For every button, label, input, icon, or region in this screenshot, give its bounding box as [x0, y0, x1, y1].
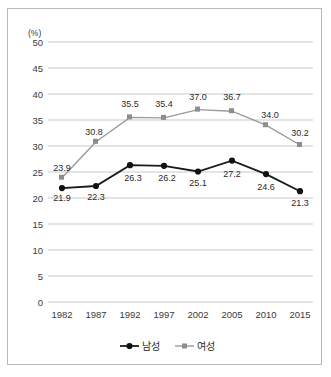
legend: 남성 여성	[120, 341, 215, 352]
y-tick-15: 15	[32, 219, 43, 230]
x-tick-2010: 2010	[255, 309, 276, 320]
data-label-male-1982: 21.9	[53, 193, 71, 203]
data-label-female-2010: 34.0	[261, 110, 279, 120]
x-tick-2015: 2015	[289, 309, 310, 320]
data-point-female-1997	[161, 115, 166, 120]
data-label-female-2015: 30.2	[291, 128, 309, 138]
legend-marker-female-icon	[182, 344, 187, 349]
y-tick-40: 40	[32, 89, 43, 100]
data-point-female-2010	[263, 122, 268, 127]
legend-marker-male-icon	[126, 343, 132, 349]
y-tick-30: 30	[32, 141, 43, 152]
data-point-female-2015	[297, 142, 302, 147]
legend-label-female: 여성	[197, 341, 215, 352]
data-point-male-2010	[263, 171, 269, 177]
data-label-male-1992: 26.3	[124, 173, 142, 183]
data-point-female-1982	[59, 175, 64, 180]
data-label-male-2002: 25.1	[189, 178, 207, 188]
data-label-male-2010: 24.6	[257, 182, 275, 192]
y-tick-35: 35	[32, 115, 43, 126]
data-point-male-2002	[195, 168, 201, 174]
data-point-male-1997	[161, 163, 167, 169]
data-labels-female: 23.9 30.8 35.5 35.4 37.0 36.7 34.0 30.2	[53, 92, 309, 173]
data-label-male-2005: 27.2	[223, 169, 241, 179]
x-axis-tick-labels: 1982 1987 1992 1997 2002 2005 2010 2015	[51, 309, 310, 320]
data-point-female-2005	[229, 108, 234, 113]
data-label-female-1987: 30.8	[85, 127, 103, 137]
data-point-male-1992	[127, 162, 133, 168]
y-tick-10: 10	[32, 245, 43, 256]
y-tick-25: 25	[32, 167, 43, 178]
data-point-female-1992	[127, 114, 132, 119]
data-label-female-1997: 35.4	[155, 99, 173, 109]
y-axis-tick-labels: 50 45 40 35 30 25 20 15 10 5 0	[32, 37, 43, 308]
x-tick-1992: 1992	[119, 309, 140, 320]
line-chart: (%) 50 45 40 35 30 25 20 15 10 5 0 1982 …	[0, 0, 331, 377]
y-tick-5: 5	[38, 271, 43, 282]
data-point-female-2002	[195, 107, 200, 112]
data-point-male-1982	[59, 185, 65, 191]
legend-label-male: 남성	[142, 341, 160, 352]
data-point-male-2005	[229, 158, 235, 164]
data-labels-male: 21.9 22.3 26.3 26.2 25.1 27.2 24.6 21.3	[53, 169, 309, 208]
data-label-male-1987: 22.3	[87, 192, 105, 202]
x-tick-1982: 1982	[51, 309, 72, 320]
y-tick-45: 45	[32, 63, 43, 74]
x-tick-2002: 2002	[187, 309, 208, 320]
y-tick-50: 50	[32, 37, 43, 48]
data-label-male-1997: 26.2	[158, 173, 176, 183]
data-label-male-2015: 21.3	[291, 198, 309, 208]
data-label-female-1992: 35.5	[121, 99, 139, 109]
x-tick-1987: 1987	[85, 309, 106, 320]
data-point-male-1987	[93, 183, 99, 189]
x-tick-2005: 2005	[221, 309, 242, 320]
data-label-female-1982: 23.9	[53, 163, 71, 173]
data-label-female-2002: 37.0	[189, 92, 207, 102]
data-label-female-2005: 36.7	[223, 92, 241, 102]
x-tick-1997: 1997	[153, 309, 174, 320]
y-tick-0: 0	[38, 297, 43, 308]
gridlines	[48, 42, 313, 302]
data-point-male-2015	[297, 188, 303, 194]
y-tick-20: 20	[32, 193, 43, 204]
data-point-female-1987	[93, 139, 98, 144]
